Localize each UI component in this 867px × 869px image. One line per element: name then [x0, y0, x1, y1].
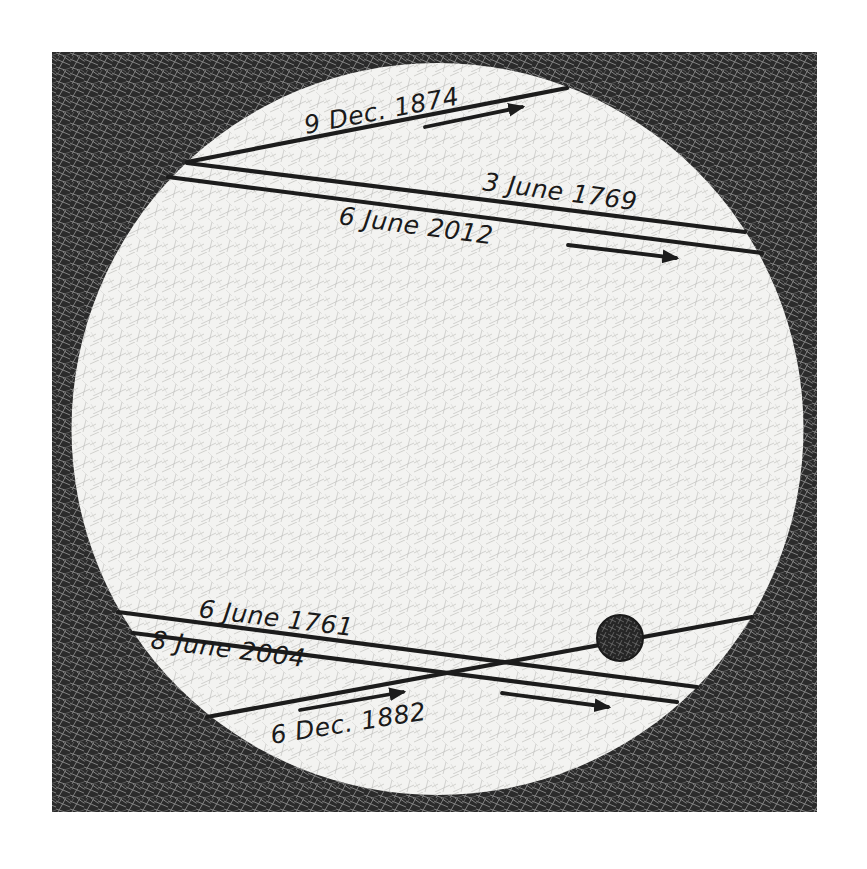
venus-disc [597, 615, 643, 661]
venus-transit-diagram: 9 Dec. 18743 June 17696 June 20126 June … [0, 0, 867, 869]
